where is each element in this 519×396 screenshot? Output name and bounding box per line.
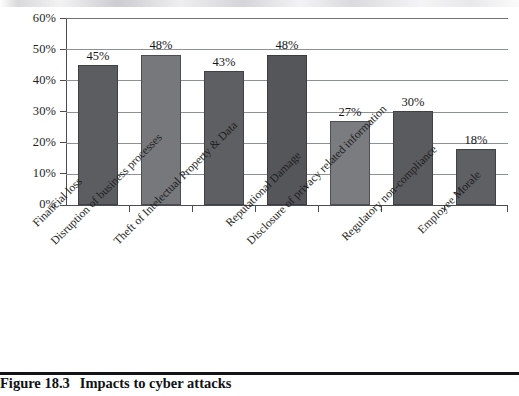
ytick-label-20: 20% bbox=[33, 136, 56, 149]
xtick-mark-7 bbox=[507, 206, 508, 212]
data-label-reputational-damage: 48% bbox=[267, 39, 307, 52]
caption-divider-rule bbox=[0, 372, 519, 375]
figure-caption-title: Impacts to cyber attacks bbox=[80, 378, 232, 391]
xtick-mark-2 bbox=[192, 206, 193, 212]
figure-caption-number: Figure 18.3 bbox=[0, 378, 70, 391]
ytick-label-30: 30% bbox=[33, 105, 56, 118]
ytick-label-60: 60% bbox=[33, 12, 56, 25]
plot-area: 45% 48% 43% 48% 27% 30% 18% bbox=[66, 18, 508, 205]
ytick-label-40: 40% bbox=[33, 74, 56, 87]
bar-chart-figure: 60% 50% 40% 30% 20% 10% 0% 45% 48% bbox=[0, 0, 519, 396]
xtick-mark-1 bbox=[129, 206, 130, 212]
data-label-financial-loss: 45% bbox=[78, 50, 118, 63]
xtick-mark-3 bbox=[255, 206, 256, 212]
data-label-disruption-of-business-processes: 48% bbox=[141, 39, 181, 52]
gridline-60 bbox=[66, 18, 508, 19]
figure-caption: Figure 18.3Impacts to cyber attacks bbox=[0, 378, 519, 396]
ytick-label-50: 50% bbox=[33, 43, 56, 56]
xtick-mark-4 bbox=[318, 206, 319, 212]
data-label-employee-morale: 18% bbox=[456, 134, 496, 147]
data-label-theft-of-intelectual-property-and-data: 43% bbox=[204, 56, 244, 69]
data-label-regulatory-non-compliance: 30% bbox=[393, 96, 433, 109]
ytick-label-10: 10% bbox=[33, 167, 56, 180]
